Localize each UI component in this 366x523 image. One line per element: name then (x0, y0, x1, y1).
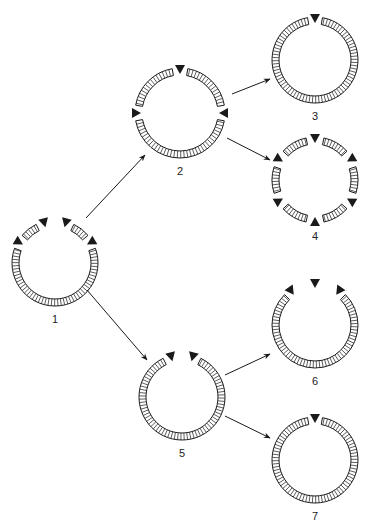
triangle-marker-icon (175, 65, 185, 74)
triangle-marker-icon (310, 217, 320, 226)
triangle-marker-icon (310, 414, 320, 423)
node-label: 1 (52, 313, 58, 325)
triangle-marker-icon (219, 108, 228, 118)
triangle-marker-icon (62, 217, 72, 227)
node-label: 6 (312, 375, 318, 387)
circle-node-1: 1 (12, 217, 98, 325)
triangle-marker-icon (347, 153, 357, 162)
triangle-marker-icon (336, 284, 345, 294)
triangle-marker-icon (165, 351, 175, 361)
arrow-2-to-4 (227, 138, 270, 160)
circles-layer: 1234567 (12, 14, 358, 522)
triangle-marker-icon (38, 217, 48, 227)
triangle-marker-icon (273, 199, 283, 208)
triangle-marker-icon (347, 199, 357, 208)
circle-node-6: 6 (272, 279, 358, 387)
triangle-marker-icon (310, 279, 320, 288)
triangle-marker-icon (273, 153, 283, 162)
node-label: 7 (312, 510, 318, 522)
triangle-marker-icon (310, 134, 320, 143)
triangle-marker-icon (310, 14, 320, 23)
arrow-1-to-2 (86, 155, 145, 218)
circle-node-7: 7 (272, 414, 358, 522)
replication-diagram: 1234567 (0, 0, 366, 523)
circle-node-3: 3 (272, 14, 358, 122)
circle-node-4: 4 (272, 134, 358, 242)
triangle-marker-icon (13, 236, 23, 245)
arrow-1-to-5 (87, 290, 147, 360)
node-label: 3 (312, 110, 318, 122)
node-label: 4 (312, 230, 318, 242)
circle-node-2: 2 (132, 65, 228, 177)
arrow-5-to-6 (225, 354, 270, 375)
triangle-marker-icon (87, 236, 97, 245)
node-label: 5 (179, 447, 185, 459)
circle-node-5: 5 (139, 351, 225, 459)
arrow-2-to-3 (232, 79, 270, 94)
triangle-marker-icon (132, 108, 141, 118)
triangle-marker-icon (285, 284, 294, 294)
node-label: 2 (177, 165, 183, 177)
triangle-marker-icon (189, 351, 199, 361)
arrow-5-to-7 (225, 416, 270, 438)
arrows-layer (86, 79, 270, 438)
